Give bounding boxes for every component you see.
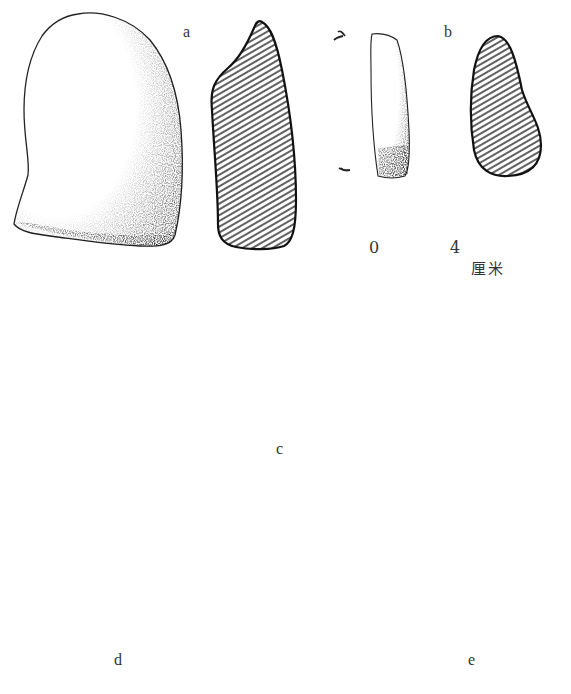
artifact-label-a: a	[183, 24, 190, 40]
scale-unit-label: 厘米	[471, 262, 505, 277]
artifact-a-cross-section	[212, 21, 296, 249]
artifact-b-cross-section	[471, 36, 541, 176]
artifact-a-surface-view	[14, 13, 182, 246]
artifact-label-d: d	[114, 652, 122, 668]
scale-start-label: 0	[369, 240, 379, 256]
artifact-label-c: c	[276, 441, 283, 457]
break-mark	[338, 31, 348, 170]
figure-plate	[0, 0, 571, 694]
artifact-b-surface-view	[334, 31, 409, 178]
scale-end-label: 4	[450, 240, 460, 256]
artifact-label-e: e	[468, 652, 475, 668]
artifact-label-b: b	[444, 24, 452, 40]
